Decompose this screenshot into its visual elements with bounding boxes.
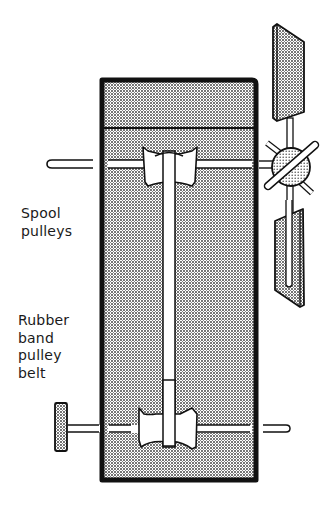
label-belt-line-1: Rubber (18, 312, 69, 330)
label-rubber-band-pulley-belt: Rubber band pulley belt (18, 312, 69, 382)
label-spool-line-2: pulleys (21, 223, 72, 241)
label-spool-pulleys: Spool pulleys (21, 205, 72, 240)
label-belt-line-2: band (18, 330, 69, 348)
fan-assembly (267, 24, 315, 307)
label-spool-line-1: Spool (21, 205, 72, 223)
label-belt-line-4: belt (18, 365, 69, 383)
crank-knob (55, 403, 67, 451)
label-belt-line-3: pulley (18, 347, 69, 365)
pulley-diagram (0, 0, 334, 506)
fan-blade-lower (275, 200, 304, 307)
fan-blade-upper (273, 24, 304, 121)
